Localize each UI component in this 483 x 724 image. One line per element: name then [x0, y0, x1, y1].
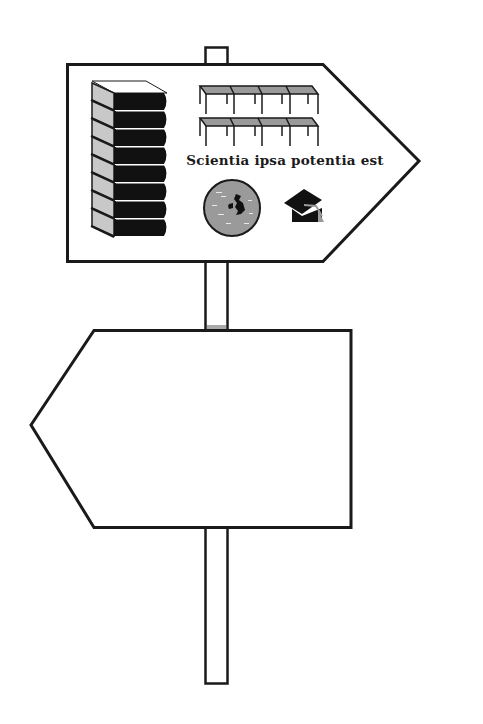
globe-uk-icon — [204, 180, 260, 236]
lower-sign-left-arrow — [31, 331, 351, 528]
motto-text: Scientia ipsa potentia est — [150, 152, 420, 168]
